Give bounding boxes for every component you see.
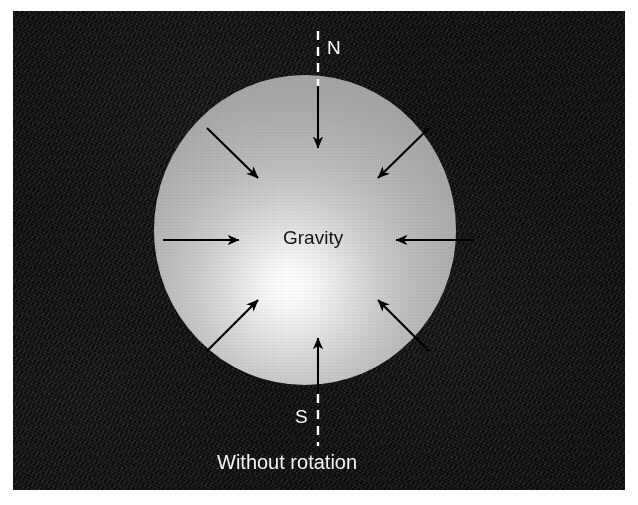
south-pole-label: S (295, 407, 308, 426)
gravity-arrow-northwest (207, 128, 258, 178)
figure-root: N S Gravity Without rotation (0, 0, 638, 505)
north-pole-label: N (327, 38, 341, 57)
arrows-overlay (0, 0, 638, 505)
gravity-arrow-southwest (207, 300, 258, 351)
gravity-arrow-northeast (378, 128, 429, 178)
figure-caption: Without rotation (217, 452, 357, 472)
gravity-label: Gravity (283, 228, 343, 247)
gravity-arrow-southeast (378, 300, 429, 351)
